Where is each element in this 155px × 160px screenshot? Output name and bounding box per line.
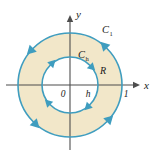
- origin-label: 0: [61, 89, 66, 99]
- y-axis-arrowhead-icon: [67, 15, 73, 22]
- x-axis-arrowhead-icon: [133, 82, 140, 88]
- outer-curve-subscript: 1: [110, 30, 113, 37]
- figure-container: y x 0 h 1 C1 Ch R: [0, 0, 155, 160]
- annulus-diagram: y x 0 h 1 C1 Ch R: [0, 0, 155, 160]
- inner-radius-tick-label: h: [86, 89, 91, 99]
- outer-curve-label: C1: [102, 24, 113, 37]
- y-axis-label: y: [75, 8, 81, 20]
- region-label: R: [99, 65, 106, 76]
- x-axis-label: x: [143, 79, 149, 91]
- outer-radius-tick-label: 1: [124, 89, 129, 99]
